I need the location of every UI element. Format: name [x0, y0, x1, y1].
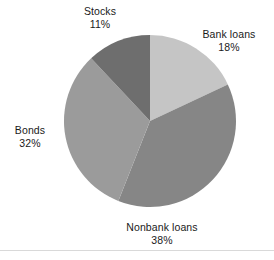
pie-label-bank-loans: Bank loans 18%	[186, 28, 272, 53]
pie-label-bonds: Bonds 32%	[2, 124, 58, 149]
pie-label-stocks-name: Stocks	[63, 5, 137, 18]
pie-label-nonbank-loans: Nonbank loans 38%	[113, 221, 211, 246]
pie-slice-group	[64, 35, 236, 207]
pie-label-bonds-name: Bonds	[2, 124, 58, 137]
pie-label-nonbank-loans-name: Nonbank loans	[113, 221, 211, 234]
pie-label-bank-loans-name: Bank loans	[186, 28, 272, 41]
pie-label-bonds-value: 32%	[2, 137, 58, 150]
pie-label-stocks: Stocks 11%	[63, 5, 137, 30]
pie-label-nonbank-loans-value: 38%	[113, 234, 211, 247]
pie-label-stocks-value: 11%	[63, 18, 137, 31]
pie-chart-figure: Bank loans 18% Nonbank loans 38% Bonds 3…	[0, 0, 274, 260]
pie-label-bank-loans-value: 18%	[186, 41, 272, 54]
footer-divider	[0, 250, 274, 251]
